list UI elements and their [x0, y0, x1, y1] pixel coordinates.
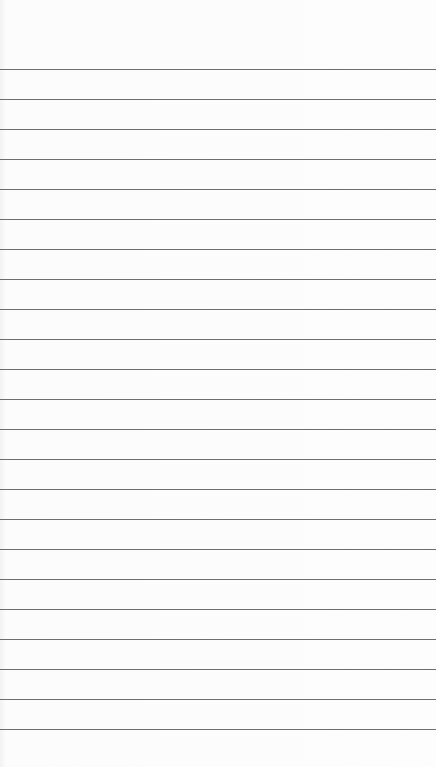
ruled-line: [0, 309, 436, 310]
ruled-line: [0, 519, 436, 520]
ruled-line: [0, 669, 436, 670]
ruled-line: [0, 729, 436, 730]
ruled-line: [0, 249, 436, 250]
ruled-line: [0, 159, 436, 160]
ruled-line: [0, 609, 436, 610]
ruled-line: [0, 489, 436, 490]
ruled-line: [0, 279, 436, 280]
ruled-line: [0, 369, 436, 370]
ruled-line: [0, 549, 436, 550]
ruled-line: [0, 639, 436, 640]
ruled-line: [0, 399, 436, 400]
ruled-line: [0, 69, 436, 70]
ruled-line: [0, 579, 436, 580]
ruled-line: [0, 219, 436, 220]
lined-paper: [0, 0, 436, 767]
ruled-line: [0, 129, 436, 130]
ruled-line: [0, 459, 436, 460]
ruled-line: [0, 429, 436, 430]
ruled-line: [0, 189, 436, 190]
ruled-line: [0, 99, 436, 100]
ruled-line: [0, 339, 436, 340]
ruled-line: [0, 699, 436, 700]
